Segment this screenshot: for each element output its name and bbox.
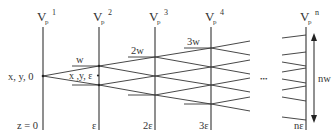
header-vn-sup: 4 [220,8,224,17]
header-v3-sub: p [157,18,161,26]
header-v1-sub: p [45,18,49,26]
header-v2-sup: 2 [108,8,112,17]
total-width-label: nw [318,73,331,84]
ellipsis: ••• [260,75,268,83]
width-label-3w: 3w [187,36,200,47]
header-vn-sup2: n [315,8,319,17]
header-v4-sub: p [213,18,217,26]
z-label-n: nε [294,120,304,131]
column-headers: V p 1 V p 2 V p 3 V p 4 V p n [37,8,319,26]
z-label-1: ε [92,120,97,131]
z-label-0: z = 0 [17,120,38,131]
nw-arrow [311,33,317,123]
header-v2-sub: p [101,18,105,26]
header-v1-sup: 1 [52,8,56,17]
z-label-2: 2ε [143,120,153,131]
header-v3-sup: 3 [164,8,168,17]
source-label: x, y, 0 [8,71,34,82]
point-label: x ,y, ε [69,70,93,81]
header-vn-sub: p [308,18,312,26]
width-label-2w: 2w [131,45,144,56]
width-label-w: w [76,54,84,65]
z-label-3: 3ε [199,120,209,131]
diagram-canvas: V p 1 V p 2 V p 3 V p 4 V p n x, y, 0 x … [0,0,336,136]
